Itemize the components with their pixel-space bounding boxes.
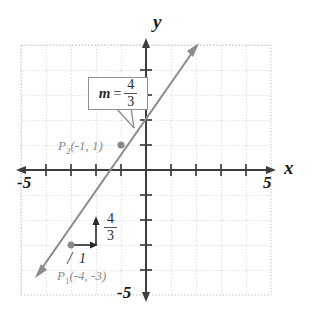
rise-numerator: 4 xyxy=(104,211,117,228)
slope-denominator: 3 xyxy=(124,94,137,110)
rise-fraction: 4 3 xyxy=(104,211,117,244)
run-label: 1 xyxy=(79,251,86,267)
point-marker-p2 xyxy=(117,141,124,148)
rise-label: 4 3 xyxy=(104,211,117,244)
point-label-p2: P2(-1, 1) xyxy=(58,139,103,156)
y-axis-min-tick-label: -5 xyxy=(117,284,131,301)
point-label-p2-name: P xyxy=(58,138,66,153)
y-axis-label: y xyxy=(153,12,161,31)
point-label-p1: P1(-4, -3) xyxy=(57,269,106,286)
slope-variable: m xyxy=(99,85,111,102)
point-label-p1-name: P xyxy=(57,268,65,283)
slope-numerator: 4 xyxy=(124,77,137,94)
point-label-p1-coords: (-4, -3) xyxy=(69,268,106,283)
x-axis-min-tick-label: -5 xyxy=(17,174,31,191)
point-marker-p1 xyxy=(68,242,75,249)
x-axis-label: x xyxy=(284,158,294,177)
equals-sign: = xyxy=(113,86,121,102)
point-label-p2-coords: (-1, 1) xyxy=(70,138,103,153)
x-axis-max-tick-label: 5 xyxy=(263,174,272,191)
rise-denominator: 3 xyxy=(104,228,117,244)
graph-figure: y x -5 5 -5 P2(-1, 1) P1(-4, -3) m = 4 3… xyxy=(0,0,313,329)
slope-fraction: 4 3 xyxy=(124,77,137,110)
coordinate-plane-svg xyxy=(0,0,313,329)
slope-callout-box: m = 4 3 xyxy=(88,77,148,110)
